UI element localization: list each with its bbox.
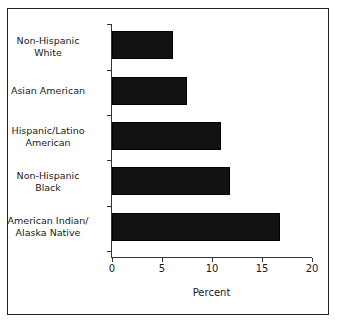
y-tick-4 bbox=[107, 206, 112, 207]
bar-2 bbox=[112, 122, 221, 150]
x-tick-0 bbox=[112, 258, 113, 262]
bar-1 bbox=[112, 77, 187, 105]
plot-area: Non-Hispanic White Asian American Hispan… bbox=[0, 0, 337, 324]
x-tick-1 bbox=[162, 258, 163, 262]
y-tick-5 bbox=[107, 251, 112, 252]
x-tick-label-3: 15 bbox=[247, 263, 277, 274]
y-axis-line bbox=[111, 24, 112, 258]
x-tick-label-1: 5 bbox=[147, 263, 177, 274]
x-tick-3 bbox=[262, 258, 263, 262]
x-tick-2 bbox=[212, 258, 213, 262]
x-tick-label-2: 10 bbox=[197, 263, 227, 274]
y-tick-0 bbox=[107, 24, 112, 25]
chart-figure: Non-Hispanic White Asian American Hispan… bbox=[0, 0, 337, 324]
bar-3 bbox=[112, 167, 230, 195]
x-tick-label-0: 0 bbox=[97, 263, 127, 274]
category-label-3: Non-Hispanic Black bbox=[0, 170, 103, 193]
bar-0 bbox=[112, 31, 173, 59]
category-label-4: American Indian/ Alaska Native bbox=[0, 215, 103, 238]
x-tick-4 bbox=[312, 258, 313, 262]
category-label-2: Hispanic/Latino American bbox=[0, 125, 103, 148]
y-tick-1 bbox=[107, 70, 112, 71]
x-tick-label-4: 20 bbox=[297, 263, 327, 274]
bar-4 bbox=[112, 213, 280, 241]
category-label-1: Asian American bbox=[0, 85, 103, 97]
y-tick-2 bbox=[107, 115, 112, 116]
x-axis-label: Percent bbox=[111, 287, 312, 298]
y-tick-3 bbox=[107, 160, 112, 161]
category-label-0: Non-Hispanic White bbox=[0, 35, 103, 58]
